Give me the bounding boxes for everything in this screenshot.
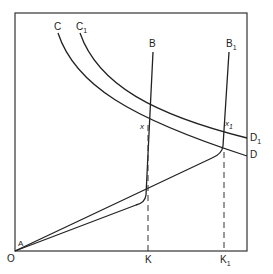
label-k: K [145,254,152,265]
label-c1: C1 [76,21,87,34]
label-d: D [250,149,257,160]
frame-box [15,13,247,251]
label-x: x [139,122,145,131]
curve-c-d [58,33,247,156]
diagram-canvas: C C1 B B1 D1 D x x1 K K1 O A [0,0,273,274]
label-x1: x1 [224,119,233,130]
curve-c1-d1 [80,33,247,138]
line-b1 [15,52,229,251]
label-b1: B1 [226,38,237,51]
label-a: A [18,239,24,248]
label-c: C [54,21,61,32]
label-b: B [149,38,156,49]
line-b [15,52,153,251]
label-d1: D1 [250,132,261,145]
label-origin: O [7,253,15,264]
label-k1: K1 [220,254,231,267]
